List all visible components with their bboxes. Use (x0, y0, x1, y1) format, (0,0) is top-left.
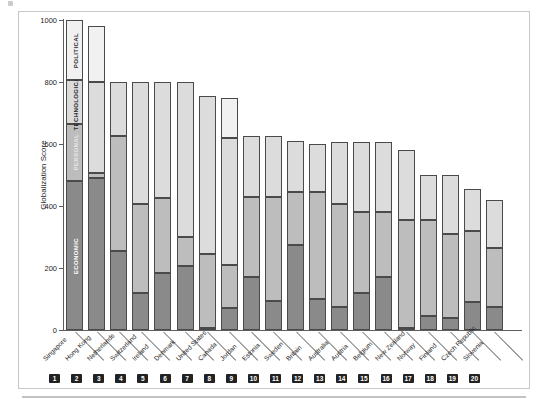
y-axis-title: Globalization Score (39, 140, 48, 209)
bar-segment-political[interactable] (221, 98, 238, 138)
bar-segment-economic[interactable] (132, 293, 149, 330)
bar-segment-technological[interactable] (375, 142, 392, 212)
bar-segment-economic[interactable] (309, 299, 326, 330)
bar-segment-personal[interactable] (309, 192, 326, 299)
bar-segment-technological[interactable] (331, 142, 348, 204)
bar-segment-personal[interactable] (177, 237, 194, 266)
rank-badge-14: 14 (336, 374, 347, 383)
bar-segment-technological[interactable] (442, 175, 459, 234)
bar-segment-economic[interactable] (88, 178, 105, 330)
bar-segment-technological[interactable] (88, 82, 105, 173)
bar-segment-economic[interactable] (331, 307, 348, 330)
bar-segment-personal[interactable] (398, 220, 415, 329)
y-tick-label: 600 (44, 140, 57, 149)
bar-czech-republic[interactable] (464, 189, 481, 330)
rank-badge-5: 5 (137, 374, 148, 383)
legend-label-political: POLITICAL (73, 33, 79, 68)
bar-segment-personal[interactable] (221, 265, 238, 308)
bar-segment-technological[interactable] (398, 150, 415, 220)
bar-segment-personal[interactable] (442, 234, 459, 318)
bar-segment-political[interactable] (88, 26, 105, 82)
figure-canvas: Globalization Score 02004006008001000 EC… (0, 0, 542, 408)
bar-segment-economic[interactable] (442, 318, 459, 330)
bar-segment-technological[interactable] (464, 189, 481, 231)
bar-austria[interactable] (353, 142, 370, 330)
bar-new-zealand[interactable] (398, 150, 415, 330)
bar-segment-technological[interactable] (265, 136, 282, 196)
bar-segment-technological[interactable] (221, 138, 238, 265)
bar-segment-personal[interactable] (154, 198, 171, 272)
plot-area: 02004006008001000 ECONOMICPERSONALTECHNO… (64, 20, 522, 330)
bar-ireland[interactable] (154, 82, 171, 330)
bar-segment-economic[interactable] (375, 277, 392, 330)
bar-segment-personal[interactable] (375, 212, 392, 277)
bar-jordan[interactable] (243, 136, 260, 330)
bar-segment-personal[interactable] (265, 197, 282, 301)
bar-segment-economic[interactable] (265, 301, 282, 330)
bar-belgium[interactable] (375, 142, 392, 330)
page-artifact-speck (8, 1, 13, 6)
bar-united-states[interactable] (199, 96, 216, 330)
bar-segment-technological[interactable] (132, 82, 149, 204)
bar-segment-personal[interactable] (287, 192, 304, 245)
bar-segment-personal[interactable]: PERSONAL (66, 124, 83, 181)
bar-segment-technological[interactable] (287, 141, 304, 192)
bar-slovenia[interactable] (486, 200, 503, 330)
rank-badge-19: 19 (447, 374, 458, 383)
bar-segment-personal[interactable] (464, 231, 481, 302)
bar-netherlands[interactable] (110, 82, 127, 330)
y-tick-mark (59, 82, 64, 83)
bar-hong-kong[interactable] (88, 26, 105, 330)
bar-segment-economic[interactable] (110, 251, 127, 330)
bar-finland[interactable] (442, 175, 459, 330)
bar-segment-personal[interactable] (420, 220, 437, 316)
bar-segment-economic[interactable] (154, 273, 171, 330)
rank-badge-3: 3 (93, 374, 104, 383)
y-tick-label: 400 (44, 202, 57, 211)
bar-switzerland[interactable] (132, 82, 149, 330)
rank-badge-4: 4 (115, 374, 126, 383)
bar-canada[interactable] (221, 98, 238, 331)
bar-segment-economic[interactable] (486, 307, 503, 330)
bar-segment-economic[interactable] (420, 316, 437, 330)
bar-britain[interactable] (309, 144, 326, 330)
bar-denmark[interactable] (177, 82, 194, 330)
bar-segment-technological[interactable] (110, 82, 127, 136)
bar-segment-technological[interactable] (420, 175, 437, 220)
rank-badge-13: 13 (314, 374, 325, 383)
bar-segment-economic[interactable] (353, 293, 370, 330)
legend-slot-personal: PERSONAL (67, 125, 84, 180)
bar-singapore[interactable]: ECONOMICPERSONALTECHNOLOGICALPOLITICAL (66, 20, 83, 330)
bar-segment-political[interactable]: POLITICAL (66, 20, 83, 80)
bar-segment-technological[interactable] (177, 82, 194, 237)
bar-segment-economic[interactable]: ECONOMIC (66, 181, 83, 330)
bar-segment-technological[interactable] (353, 142, 370, 212)
y-tick-label: 200 (44, 264, 57, 273)
bar-segment-technological[interactable] (199, 96, 216, 254)
bar-segment-personal[interactable] (331, 204, 348, 306)
bar-segment-personal[interactable] (110, 136, 127, 251)
rank-badge-20: 20 (469, 374, 480, 383)
bar-segment-economic[interactable] (243, 277, 260, 330)
bar-segment-technological[interactable] (243, 136, 260, 196)
bar-segment-technological[interactable]: TECHNOLOGICAL (66, 80, 83, 123)
y-tick-label: 1000 (40, 16, 57, 25)
bar-segment-personal[interactable] (353, 212, 370, 293)
rank-badge-6: 6 (160, 374, 171, 383)
rank-badge-11: 11 (270, 374, 281, 383)
bar-segment-economic[interactable] (177, 266, 194, 330)
bar-segment-technological[interactable] (154, 82, 171, 198)
bar-segment-technological[interactable] (486, 200, 503, 248)
bar-norway[interactable] (420, 175, 437, 330)
bar-segment-economic[interactable] (287, 245, 304, 330)
bar-segment-personal[interactable] (132, 204, 149, 292)
bar-segment-personal[interactable] (199, 254, 216, 327)
bar-estonia[interactable] (265, 136, 282, 330)
bar-segment-technological[interactable] (309, 144, 326, 192)
bar-segment-personal[interactable] (88, 173, 105, 178)
bar-australia[interactable] (331, 142, 348, 330)
bar-segment-personal[interactable] (486, 248, 503, 307)
bar-segment-economic[interactable] (221, 308, 238, 330)
bar-sweden[interactable] (287, 141, 304, 330)
bar-segment-personal[interactable] (243, 197, 260, 278)
